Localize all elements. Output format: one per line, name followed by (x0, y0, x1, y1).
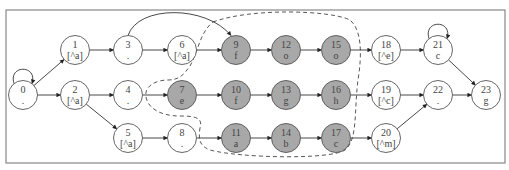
edge-2-to-5 (86, 104, 116, 129)
edge-0-to-1 (34, 59, 64, 85)
state-node-12: 12o (272, 36, 301, 65)
state-id: 0 (21, 84, 26, 95)
state-label: c (436, 50, 441, 61)
state-id: 12 (281, 39, 291, 50)
state-node-0: 0. (9, 81, 38, 110)
state-id: 3 (126, 39, 131, 50)
edges-layer (13, 13, 475, 138)
state-node-3: 3. (114, 36, 143, 65)
state-id: 4 (126, 84, 131, 95)
state-label: . (437, 95, 440, 106)
state-id: 21 (433, 39, 443, 50)
state-node-1: 1[^a] (61, 36, 90, 65)
state-node-2: 2[^a] (61, 81, 90, 110)
state-node-13: 13g (272, 81, 301, 110)
state-id: 2 (73, 84, 78, 95)
state-label: . (127, 95, 130, 106)
state-node-9: 9f (222, 36, 251, 65)
edge-3-to-9 (128, 13, 231, 36)
state-id: 23 (481, 84, 491, 95)
state-label: [^a] (67, 50, 83, 61)
edge-20-to-22 (397, 104, 427, 129)
diagram-canvas: 0.1[^a]2[^a]3.4.5[^a]6[^a]7e8.9f10f11a12… (0, 0, 509, 170)
state-node-21: 21c (424, 36, 453, 65)
state-node-7: 7e (168, 81, 197, 110)
state-node-14: 14b (272, 124, 301, 153)
state-node-5: 5[^a] (114, 124, 143, 153)
state-id: 19 (381, 84, 391, 95)
state-label: o (284, 50, 289, 61)
state-label: . (22, 95, 25, 106)
state-node-10: 10f (222, 81, 251, 110)
state-id: 6 (180, 39, 185, 50)
state-node-16: 16h (322, 81, 351, 110)
state-id: 9 (234, 39, 239, 50)
state-node-22: 22. (424, 81, 453, 110)
state-id: 22 (433, 84, 443, 95)
state-id: 16 (331, 84, 341, 95)
state-label: . (181, 138, 184, 149)
state-node-15: 15o (322, 36, 351, 65)
state-label: [^a] (174, 50, 190, 61)
state-node-17: 17c (322, 124, 351, 153)
state-node-19: 19[^c] (372, 81, 401, 110)
state-label: o (334, 50, 339, 61)
state-node-6: 6[^a] (168, 36, 197, 65)
state-label: [^a] (120, 138, 136, 149)
state-node-18: 18[^e] (372, 36, 401, 65)
state-id: 1 (73, 39, 78, 50)
state-node-11: 11a (222, 124, 251, 153)
state-label: g (284, 95, 289, 106)
nodes-layer: 0.1[^a]2[^a]3.4.5[^a]6[^a]7e8.9f10f11a12… (9, 36, 501, 153)
edge-21-to-23 (449, 60, 476, 85)
state-node-8: 8. (168, 124, 197, 153)
state-id: 15 (331, 39, 341, 50)
state-label: c (334, 138, 339, 149)
state-label: [^m] (376, 138, 395, 149)
state-label: [^a] (67, 95, 83, 106)
state-node-23: 23g (472, 81, 501, 110)
state-id: 7 (180, 84, 185, 95)
state-label: . (127, 50, 130, 61)
state-id: 13 (281, 84, 291, 95)
state-label: e (180, 95, 185, 106)
state-diagram: 0.1[^a]2[^a]3.4.5[^a]6[^a]7e8.9f10f11a12… (0, 0, 509, 170)
state-label: h (334, 95, 339, 106)
state-id: 14 (281, 127, 291, 138)
state-id: 20 (381, 127, 391, 138)
state-id: 17 (331, 127, 341, 138)
state-node-20: 20[^m] (372, 124, 401, 153)
state-id: 11 (231, 127, 241, 138)
state-label: g (484, 95, 489, 106)
state-label: [^c] (378, 95, 394, 106)
state-label: b (284, 138, 289, 149)
state-id: 10 (231, 84, 241, 95)
state-id: 5 (126, 127, 131, 138)
state-label: [^e] (378, 50, 394, 61)
state-id: 18 (381, 39, 391, 50)
state-id: 8 (180, 127, 185, 138)
state-node-4: 4. (114, 81, 143, 110)
state-label: a (234, 138, 239, 149)
